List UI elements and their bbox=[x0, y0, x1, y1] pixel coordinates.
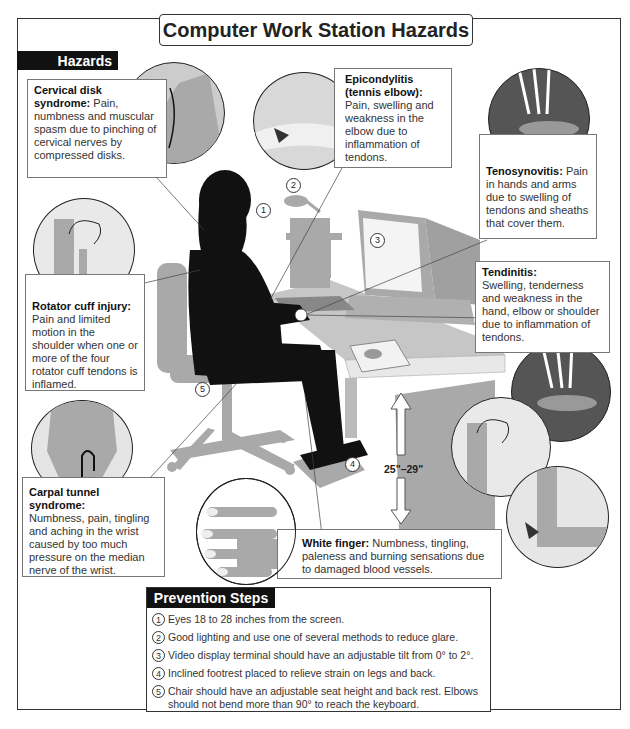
step-text: Eyes 18 to 28 inches from the screen. bbox=[168, 613, 344, 626]
monitor-icon bbox=[345, 210, 480, 325]
lamp-icon bbox=[284, 195, 342, 288]
hazard-description: Pain and limited motion in the shoulder … bbox=[32, 313, 138, 390]
elbow-icon bbox=[507, 467, 608, 567]
callout-cervical-disk: Cervical disk syndrome: Pain, numbness a… bbox=[27, 79, 167, 178]
step-number-badge: 2 bbox=[152, 631, 165, 644]
hazard-name: Carpal tunnel syndrome: bbox=[29, 486, 158, 512]
hazard-name: White finger: bbox=[302, 537, 372, 549]
marker-5: 5 bbox=[195, 382, 210, 397]
prevention-item: 5 Chair should have an adjustable seat h… bbox=[152, 685, 486, 711]
step-number-badge: 4 bbox=[152, 667, 165, 680]
step-text: Good lighting and use one of several met… bbox=[168, 631, 458, 644]
step-text: Video display terminal should have an ad… bbox=[168, 649, 473, 662]
hazard-description: Pain, swelling and weakness in the elbow… bbox=[345, 99, 445, 164]
hazard-name: Tendinitis: bbox=[482, 266, 603, 279]
callout-white-finger: White finger: Numbness, tingling, palene… bbox=[277, 529, 502, 579]
callout-epicondylitis: Epicondylitis (tennis elbow): Pain, swel… bbox=[334, 68, 452, 168]
hazards-header: Hazards bbox=[17, 51, 118, 70]
prevention-item: 1 Eyes 18 to 28 inches from the screen. bbox=[152, 613, 486, 626]
prevention-item: 3 Video display terminal should have an … bbox=[152, 649, 486, 662]
prevention-item: 4 Inclined footrest placed to relieve st… bbox=[152, 667, 486, 680]
prevention-item: 2 Good lighting and use one of several m… bbox=[152, 631, 486, 644]
step-text: Chair should have an adjustable seat hei… bbox=[168, 685, 486, 711]
callout-tenosynovitis: Tenosynovitis: Pain in hands and arms du… bbox=[479, 134, 597, 239]
callout-tendinitis: Tendinitis: Swelling, tenderness and wea… bbox=[475, 261, 610, 353]
elbow-inset-small bbox=[506, 466, 609, 568]
hazard-description: Swelling, tenderness and weakness in the… bbox=[482, 279, 599, 343]
prevention-header: Prevention Steps bbox=[147, 588, 275, 608]
prevention-steps-panel: Prevention Steps 1 Eyes 18 to 28 inches … bbox=[146, 587, 491, 712]
step-text: Inclined footrest placed to relieve stra… bbox=[168, 667, 435, 680]
hazard-name: Rotator cuff injury: bbox=[32, 300, 138, 313]
step-number-badge: 5 bbox=[152, 685, 165, 698]
callout-rotator-cuff: Rotator cuff injury: Pain and limited mo… bbox=[25, 274, 145, 391]
marker-4: 4 bbox=[345, 457, 360, 472]
desk-height-label: 25"–29" bbox=[384, 463, 423, 475]
page-title: Computer Work Station Hazards bbox=[159, 14, 473, 46]
fingers-inset-overlay bbox=[196, 478, 296, 585]
marker-3: 3 bbox=[370, 233, 385, 248]
marker-1: 1 bbox=[256, 203, 271, 218]
marker-2: 2 bbox=[286, 178, 301, 193]
hazard-description: Numbness, pain, tingling and aching in t… bbox=[29, 512, 149, 576]
callout-carpal-tunnel: Carpal tunnel syndrome: Numbness, pain, … bbox=[22, 477, 165, 577]
prevention-list: 1 Eyes 18 to 28 inches from the screen. … bbox=[152, 613, 486, 716]
hazard-name: Epicondylitis (tennis elbow): bbox=[345, 73, 423, 98]
hazard-name: Cervical disk syndrome: bbox=[34, 84, 102, 109]
step-number-badge: 1 bbox=[152, 613, 165, 626]
step-number-badge: 3 bbox=[152, 649, 165, 662]
hazard-name: Tenosynovitis: bbox=[486, 165, 566, 177]
